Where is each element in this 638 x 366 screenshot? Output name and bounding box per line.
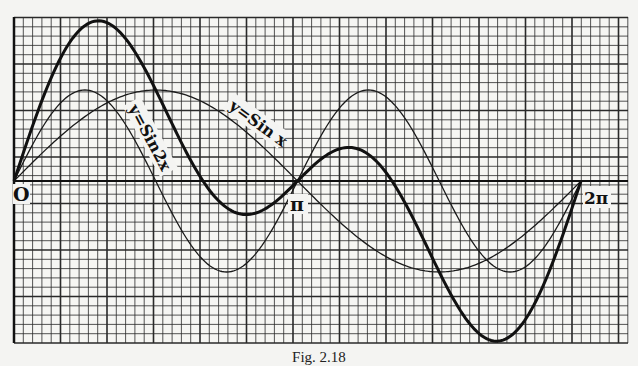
figure-caption: Fig. 2.18 <box>0 349 638 366</box>
graph-paper-grid <box>14 17 628 343</box>
pi-label: π <box>290 193 304 215</box>
origin-label: O <box>13 183 30 205</box>
two-pi-label: 2π <box>584 188 608 208</box>
